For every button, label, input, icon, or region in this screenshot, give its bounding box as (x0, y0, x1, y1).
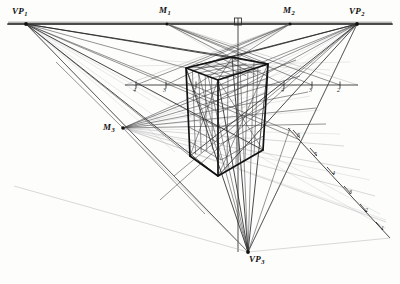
horizon-line-group (8, 22, 392, 24)
label-m3: M3 (103, 122, 115, 132)
tick-label-h-3: 4 (281, 87, 284, 93)
m1-dot (165, 22, 168, 25)
tick-label-d-3: 3 (349, 189, 352, 195)
diagonal-measuring-line (288, 128, 390, 238)
m3-dot (121, 126, 125, 130)
label-vp2: VP2 (349, 6, 364, 16)
tick-label-h-1: 3 (163, 87, 166, 93)
label-m2: M2 (283, 5, 295, 15)
m2-dot (288, 22, 291, 25)
label-m1: M1 (159, 5, 171, 15)
label-vp1: VP1 (12, 6, 27, 16)
rays-from-vp3 (14, 24, 390, 252)
tick-label-h-4: 3 (309, 87, 312, 93)
tick-label-h-2: 2 (193, 87, 196, 93)
tick-label-d-0: 6 (297, 132, 300, 138)
tick-label-d-4: 2 (365, 207, 368, 213)
vp1-dot (24, 22, 28, 26)
tick-label-d-2: 4 (332, 170, 335, 176)
vp2-dot (355, 22, 359, 26)
tick-label-d-5: 1 (381, 225, 384, 231)
label-vp3: VP3 (249, 254, 264, 264)
tick-label-h-0: 4 (133, 87, 136, 93)
perspective-construction-svg: .ink-heavy { stroke: #111111; stroke-wid… (0, 0, 400, 284)
tick-label-h-5: 2 (337, 87, 340, 93)
drawing-canvas: .ink-heavy { stroke: #111111; stroke-wid… (0, 0, 400, 284)
rays-from-vp1 (26, 24, 300, 252)
tick-label-d-1: 5 (314, 151, 317, 157)
point-markers (24, 22, 359, 254)
